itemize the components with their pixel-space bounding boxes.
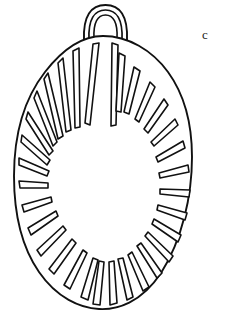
margin-body-text: c W to ch — [202, 0, 228, 60]
slot-ll-1 — [19, 181, 48, 188]
margin-text-line-1: c — [202, 28, 228, 42]
pendant-figure — [0, 0, 228, 319]
slot-ul-1 — [73, 48, 80, 128]
page-canvas: c W to ch — [0, 0, 228, 319]
